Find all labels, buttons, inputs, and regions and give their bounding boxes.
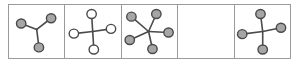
graph-node: [276, 23, 285, 32]
graph-node: [151, 10, 160, 19]
graph-node: [70, 29, 79, 38]
panel-empty: [178, 5, 234, 58]
graph-node: [87, 10, 96, 19]
graph-node: [237, 30, 246, 39]
panel-three-node-star: [9, 5, 65, 58]
graph-canvas: [65, 5, 120, 58]
graph-node: [255, 10, 264, 19]
graph-canvas: [178, 5, 233, 58]
panel-four-node-filled-cross: [235, 5, 290, 58]
edge-group: [74, 14, 111, 50]
graph-node: [125, 35, 134, 44]
graph-node: [164, 28, 173, 37]
graph-node: [16, 19, 25, 28]
graph-canvas: [235, 5, 290, 58]
graph-canvas: [9, 5, 64, 58]
graph-node: [258, 45, 267, 54]
graph-node: [148, 44, 157, 53]
panel-four-node-open-cross: [65, 5, 121, 58]
graph-node: [90, 45, 99, 54]
node-group: [16, 14, 55, 52]
graph-node: [127, 12, 136, 21]
figure-strip: [8, 4, 291, 59]
graph-canvas: [122, 5, 177, 58]
graph-node: [46, 14, 55, 23]
edge-group: [242, 14, 281, 50]
graph-node: [34, 43, 43, 52]
graph-node: [107, 24, 116, 33]
panel-five-node-star: [122, 5, 178, 58]
